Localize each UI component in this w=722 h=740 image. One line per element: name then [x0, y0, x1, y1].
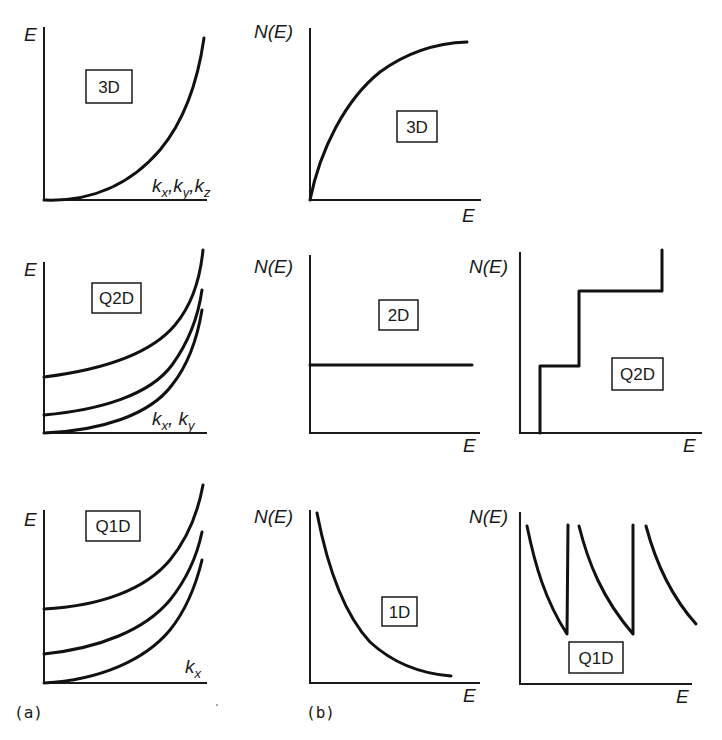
y-axis-label: E [24, 259, 37, 280]
tag-label: 1D [389, 603, 411, 622]
subband-curve-1 [44, 560, 202, 683]
tag-label: Q1D [96, 517, 131, 536]
y-axis-label: N(E) [254, 256, 293, 277]
tag-label: 3D [98, 78, 120, 97]
subband-curve-3 [44, 485, 203, 609]
x-axis-label: E [462, 205, 475, 226]
dos-segment-3 [646, 526, 696, 624]
panel-dos-q2d: N(E) E Q2D [469, 250, 702, 456]
panel-dos-2d: N(E) E 2D [254, 255, 480, 456]
dos-curve [310, 42, 467, 200]
x-axis-label: E [676, 686, 689, 707]
x-axis-label: E [463, 685, 476, 706]
x-axis-label: kx,ky,kz [152, 175, 211, 200]
scan-speck [216, 704, 218, 706]
tag-label: Q2D [99, 289, 134, 308]
x-axis-label: E [463, 435, 476, 456]
x-axis-label: kx, ky [152, 408, 196, 433]
panel-dispersion-3d: E kx,ky,kz 3D [24, 24, 211, 201]
panel-dispersion-q2d: E kx, ky Q2D [24, 250, 207, 434]
x-axis-label: kx [185, 656, 202, 681]
dos-segment-2 [579, 525, 633, 634]
panel-dos-q1d: N(E) E Q1D [469, 506, 696, 707]
tag-label: Q1D [579, 649, 614, 668]
y-axis-label: E [24, 24, 37, 45]
y-axis-label: E [24, 509, 37, 530]
figure-canvas: E kx,ky,kz 3D N(E) E 3D E kx, ky Q2D N(E… [0, 0, 722, 740]
y-axis-label: N(E) [254, 21, 293, 42]
y-axis-label: N(E) [469, 506, 508, 527]
tag-label: 2D [388, 306, 410, 325]
tag-label: 3D [406, 118, 428, 137]
panel-dos-3d: N(E) E 3D [254, 21, 481, 226]
panel-label-b: (b) [306, 703, 335, 722]
x-axis-label: E [683, 435, 696, 456]
y-axis-label: N(E) [469, 256, 508, 277]
dos-staircase [540, 250, 662, 433]
panel-dispersion-q1d: E kx Q1D (a) [14, 485, 207, 722]
tag-label: Q2D [620, 365, 655, 384]
panel-label-a: (a) [14, 703, 43, 722]
dos-curve [317, 513, 451, 676]
y-axis-label: N(E) [254, 506, 293, 527]
dos-segment-1 [527, 525, 568, 634]
panel-dos-1d: N(E) E 1D (b) [254, 506, 480, 722]
